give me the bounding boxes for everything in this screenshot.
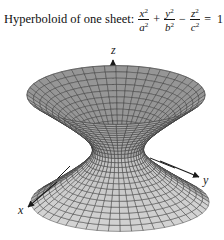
- y-axis-label: y: [202, 173, 209, 187]
- x-axis-label: x: [17, 203, 24, 217]
- hyperboloid-plot: z x y: [0, 0, 224, 240]
- z-axis-label: z: [110, 43, 116, 57]
- hyperboloid-surface: [27, 66, 209, 232]
